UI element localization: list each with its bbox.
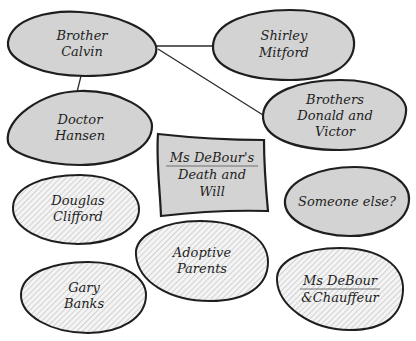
node-brothers-donald-victor[interactable]: Brothers Donald and Victor xyxy=(263,80,406,150)
node-label: Someone else? xyxy=(298,194,397,209)
node-gary-banks[interactable]: Gary Banks xyxy=(21,262,146,333)
node-label: Shirley xyxy=(261,28,309,43)
node-label: Mitford xyxy=(258,45,309,60)
node-label: Clifford xyxy=(53,209,103,224)
mind-map-diagram: Brother Calvin Shirley Mitford Doctor Ha… xyxy=(0,0,416,341)
node-label: Calvin xyxy=(61,44,103,59)
node-label: Ms DeBour xyxy=(302,273,378,288)
node-label: Adoptive xyxy=(172,245,232,260)
node-doctor-hansen[interactable]: Doctor Hansen xyxy=(8,91,152,165)
node-center-death-will[interactable]: Ms DeBour's Death and Will xyxy=(157,134,268,216)
node-label: Victor xyxy=(315,124,356,139)
node-label: Brothers xyxy=(305,92,364,107)
node-label: Douglas xyxy=(50,193,105,208)
node-label: Donald and xyxy=(296,108,372,123)
node-label: Will xyxy=(199,184,225,199)
node-douglas-clifford[interactable]: Douglas Clifford xyxy=(13,175,139,244)
node-label: &Chauffeur xyxy=(301,290,379,305)
node-shirley-mitford[interactable]: Shirley Mitford xyxy=(213,10,354,80)
node-brother-calvin[interactable]: Brother Calvin xyxy=(8,12,156,76)
node-label: Gary xyxy=(68,280,100,295)
node-someone-else[interactable]: Someone else? xyxy=(285,167,409,236)
node-label: Death and xyxy=(177,167,246,182)
node-label: Brother xyxy=(55,28,108,43)
node-label: Ms DeBour's xyxy=(169,150,255,165)
node-label: Banks xyxy=(63,296,105,311)
node-label: Hansen xyxy=(54,128,105,143)
edge-calvin-hansen xyxy=(77,76,81,92)
node-adoptive-parents[interactable]: Adoptive Parents xyxy=(136,221,268,301)
node-debour-chauffeur[interactable]: Ms DeBour &Chauffeur xyxy=(277,248,403,330)
node-label: Parents xyxy=(176,261,227,276)
node-label: Doctor xyxy=(57,112,104,127)
